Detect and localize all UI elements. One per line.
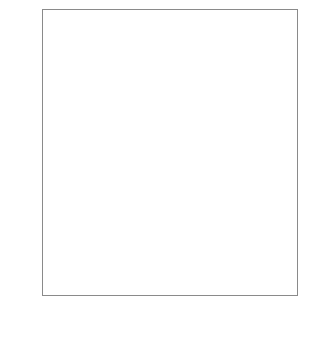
scatter-plot-figure: [0, 0, 315, 340]
y-axis-label-container: [0, 0, 22, 300]
plot-frame: [43, 10, 298, 296]
plot-canvas: [0, 0, 315, 340]
